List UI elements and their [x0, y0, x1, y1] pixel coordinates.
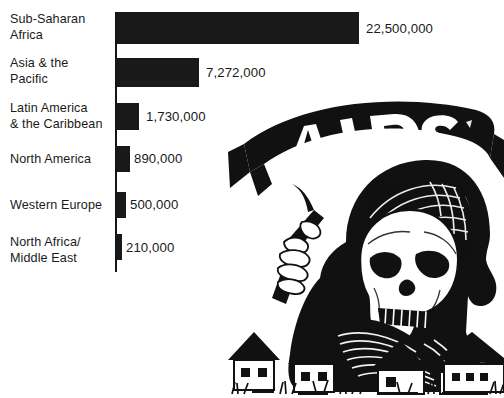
category-label-line2: Middle East: [10, 251, 77, 265]
category-label-line2: & the Caribbean: [10, 117, 103, 131]
bar: [117, 192, 126, 218]
category-label-line1: Asia & the: [10, 56, 68, 70]
bar-value-label: 1,730,000: [146, 110, 206, 123]
bar: [117, 103, 139, 130]
category-label: Asia & the Pacific: [10, 56, 113, 87]
bar: [117, 146, 130, 172]
bar-value-label: 210,000: [126, 241, 174, 254]
category-label: Latin America & the Caribbean: [10, 101, 113, 132]
category-label: North America: [10, 152, 113, 168]
category-label-line2: Pacific: [10, 72, 48, 86]
bar-value-label: 500,000: [130, 198, 178, 211]
bar-value-label: 22,500,000: [366, 22, 433, 35]
category-label-line1: North Africa/: [10, 235, 81, 249]
chart-row: North Africa/ Middle East 210,000: [0, 0, 300, 43]
bar-value-label: 890,000: [134, 152, 182, 165]
bar: [117, 58, 199, 87]
category-label: North Africa/ Middle East: [10, 235, 113, 266]
bar: [117, 234, 122, 260]
category-label: Western Europe: [10, 198, 113, 214]
hut: [228, 332, 280, 390]
chart-axis-line: [115, 12, 117, 272]
category-label-line1: Latin America: [10, 101, 88, 115]
category-label-line1: North America: [10, 152, 91, 166]
bar-value-label: 7,272,000: [206, 66, 266, 79]
category-label-line1: Western Europe: [10, 198, 102, 212]
grim-reaper-aids-illustration: [228, 92, 504, 398]
aids-prevalence-infographic: Sub-Saharan Africa 22,500,000 Asia & the…: [0, 0, 504, 398]
